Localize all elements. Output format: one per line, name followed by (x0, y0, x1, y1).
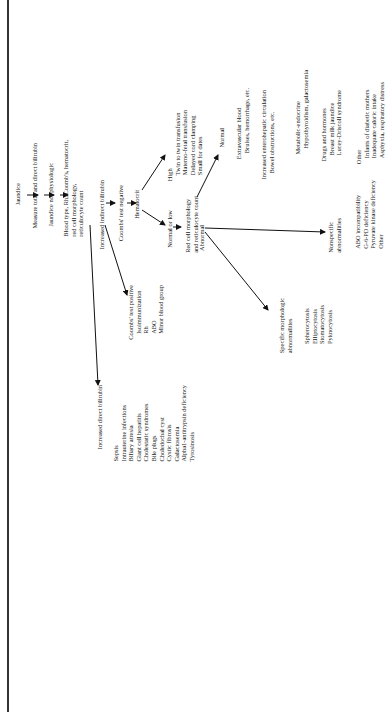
jaundice-node: Jaundice (14, 183, 22, 205)
rbc-morphology-node: Red cell morphology and reticulocyte cou… (184, 196, 199, 253)
normal-group-extravascular: Extravascular blood Bruises, hemorrhage,… (235, 88, 250, 159)
coombs-negative-node: Coombs' test negative (117, 185, 125, 241)
normal-group-metabolic: Metabolic-endocrine Hypothyroidism, gala… (294, 70, 309, 154)
measure-bilirubin-node: Measure total and direct bilirubin (31, 143, 39, 229)
specific-morphologic-list: Spherocytosis Elliptocytosis Stomatocyto… (303, 305, 333, 344)
direct-bilirubin-node: Increased direct bilirubin (96, 385, 104, 449)
normal-node: Normal (218, 128, 226, 148)
not-physiologic-node: Jaundice not physiologic (47, 163, 55, 227)
coombs-positive-node: Coombs' test positive Isoimmunization Rh… (127, 285, 165, 340)
nonspecific-list: ABO incompatibility G-6-PD deficiency Py… (354, 180, 384, 249)
normal-group-other: Other Infants of diabetic mothers Inadeq… (355, 82, 385, 164)
specific-morphologic-node: Specific morphologic abnormalities (278, 298, 293, 353)
indirect-bilirubin-node: Increased indirect bilirubin (98, 180, 106, 249)
direct-bilirubin-list: Sepsis Intrauterine infections Biliary a… (112, 385, 196, 462)
nonspecific-node: Nonspecific abnormalities (327, 218, 342, 253)
high-node: High Twin to twin transfusion Materno-fe… (166, 110, 204, 181)
normal-group-drugs: Drugs and hormones Breast milk jaundice … (320, 90, 343, 162)
hematocrit-node: Hematocrit (133, 190, 141, 219)
blood-tests-node: Blood type, Rh, Coomb's, hematocrit, red… (62, 140, 85, 237)
abnormal-node: Abnormal (198, 225, 206, 251)
normal-or-low-node: Normal or low (166, 210, 174, 248)
normal-group-enterohepatic: Increased enterohepatic circulation Bowe… (260, 90, 275, 179)
